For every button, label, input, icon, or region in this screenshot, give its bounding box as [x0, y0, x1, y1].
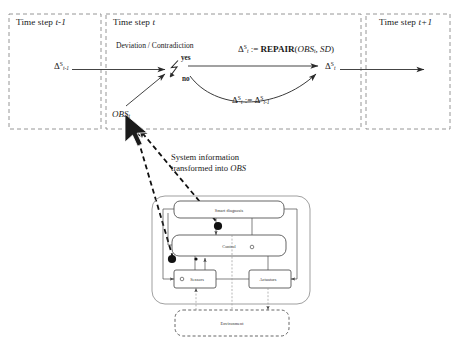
label-smart-diagnosis: Smart diagnosis — [215, 207, 243, 212]
timestep-next-prefix: Time step — [379, 17, 418, 27]
obs-sub: t — [129, 113, 131, 119]
annotation-line-1: System information — [171, 152, 246, 163]
frame-current — [106, 14, 361, 129]
repair-paren-close: ) — [331, 44, 334, 54]
dashed-arrow-outer — [135, 129, 173, 258]
branch-label-no: no — [182, 76, 190, 84]
label-control: Control — [222, 243, 236, 248]
timestep-label-next: Time step t+1 — [379, 18, 432, 28]
annotation-line-2: transformed into OBS — [171, 163, 246, 174]
obs-label: OBSt — [112, 110, 130, 119]
carryover-assign: := — [242, 95, 254, 105]
timestep-label-current: Time step t — [113, 18, 155, 28]
label-actuators: Actuators — [259, 277, 276, 282]
output-delta-sub: t — [334, 65, 336, 71]
timestep-current-symbol: t — [152, 17, 155, 27]
tap-point-lower — [168, 255, 176, 263]
label-environment: Environment — [221, 321, 244, 326]
repair-arg-sd: SD — [320, 44, 331, 54]
obs-text: OBS — [112, 109, 129, 119]
input-delta-sub: t-1 — [63, 65, 69, 71]
tap-point-small — [194, 257, 197, 260]
repair-formula: ΔSt := REPAIR(OBSt, SD) — [238, 45, 334, 54]
frame-prev — [9, 14, 101, 129]
timestep-label-prev: Time step t-1 — [16, 18, 66, 28]
diagram-vector-layer — [0, 0, 456, 347]
deviation-glyph — [170, 61, 178, 78]
timeline-flow — [72, 66, 424, 70]
arrow-obs-to-decision — [126, 74, 165, 106]
timestep-next-symbol: t+1 — [418, 17, 432, 27]
timestep-frames — [9, 14, 450, 129]
label-sensors: Sensors — [190, 277, 204, 282]
timestep-prev-prefix: Time step — [16, 17, 55, 27]
output-delta-label: ΔSt — [325, 62, 335, 71]
branch-label-yes: yes — [181, 55, 191, 63]
system-architecture-diagram — [152, 196, 310, 336]
port-sensors — [180, 277, 184, 281]
diagram-canvas: Time step t-1 Time step t Time step t+1 … — [0, 0, 456, 347]
annotation-line-2-prefix: transformed into — [171, 163, 230, 173]
carryover-rhs-sub: t-1 — [263, 99, 269, 105]
timestep-current-prefix: Time step — [113, 17, 152, 27]
repair-function-name: REPAIR — [261, 44, 295, 54]
input-delta-label: ΔSt-1 — [54, 62, 69, 71]
deviation-contradiction-label: Deviation / Contradiction — [116, 42, 194, 50]
port-control-right — [250, 245, 254, 249]
tap-point-upper — [214, 222, 222, 230]
frame-next — [366, 14, 450, 129]
timestep-prev-symbol: t-1 — [55, 17, 66, 27]
repair-arg-obs: OBS — [297, 44, 314, 54]
carryover-formula: ΔSt := ΔSt-1 — [232, 96, 270, 105]
repair-assign: := — [248, 44, 260, 54]
annotation-line-2-obs: OBS — [230, 163, 246, 173]
system-information-annotation: System information transformed into OBS — [171, 152, 246, 173]
